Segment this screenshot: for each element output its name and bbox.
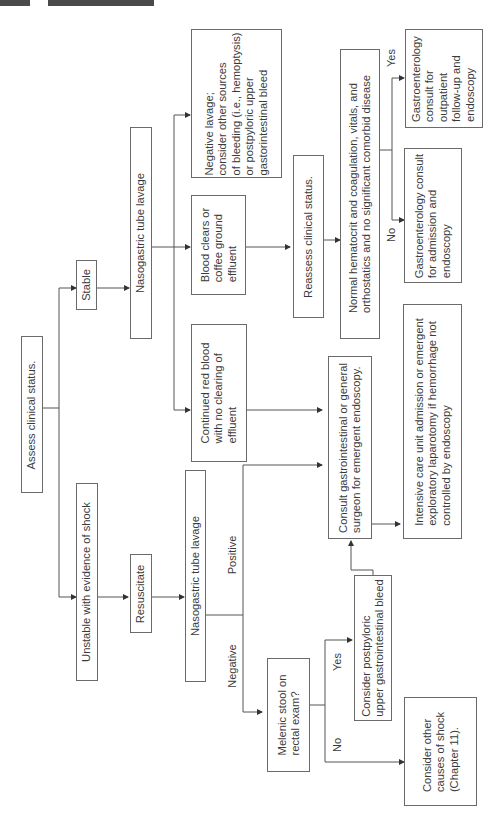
resuscitate-box: Resuscitate: [130, 554, 152, 633]
negative-label: Negative: [226, 644, 238, 687]
ngt-lavage-unstable-box: Nasogastric tube lavage: [185, 470, 206, 682]
consult-surgeon-text: Consult gastrointestinal or general surg…: [337, 363, 364, 533]
stable-box: Stable: [76, 260, 97, 310]
yes-normal-label: Yes: [385, 49, 397, 67]
gi-outpatient-text: Gastroenterology consult for outpatient …: [410, 36, 477, 122]
ngt-lavage-stable-box: Nasogastric tube lavage: [130, 127, 152, 339]
ngt-unstable-text: Nasogastric tube lavage: [189, 516, 202, 636]
unstable-text: Unstable with evidence of shock: [80, 502, 93, 662]
other-causes-shock-box: Consider other causes of shock (Chapter …: [404, 697, 477, 806]
other-causes-text: Consider other causes of shock (Chapter …: [420, 711, 460, 791]
yes-melenic-label: Yes: [331, 653, 343, 671]
no-normal-label: No: [385, 228, 397, 242]
ngt-stable-text: Nasogastric tube lavage: [134, 173, 147, 293]
blood-clears-text: Blood clears or coffee ground effluent: [198, 208, 238, 283]
no-melenic-label: No: [331, 738, 343, 752]
negative-lavage-box: Negative lavage; consider other sources …: [191, 29, 282, 178]
gi-outpatient-box: Gastroenterology consult for outpatient …: [405, 29, 483, 128]
reassess-clinical-status-box: Reassess clinical status.: [293, 155, 324, 318]
melenic-text: Melenic stool on rectal exam?: [275, 675, 302, 756]
assess-clinical-status-box: Assess clinical status.: [21, 336, 43, 493]
normal-hematocrit-box: Normal hematocrit and coagulation, vital…: [340, 49, 380, 339]
gi-admission-text: Gastroenterology consult for admission a…: [413, 153, 453, 277]
normal-hct-text: Normal hematocrit and coagulation, vital…: [347, 75, 374, 313]
continued-red-blood-box: Continued red blood with no clearing of …: [191, 324, 247, 462]
positive-label: Positive: [226, 536, 238, 575]
melenic-stool-box: Melenic stool on rectal exam?: [267, 658, 310, 772]
negative-lavage-text: Negative lavage; consider other sources …: [203, 32, 270, 175]
postpyloric-bleed-box: Consider postpyloric upper gastrointesti…: [354, 575, 392, 721]
icu-laparotomy-box: Intensive care unit admission or emergen…: [403, 304, 462, 539]
unstable-shock-box: Unstable with evidence of shock: [76, 483, 98, 681]
blood-clears-box: Blood clears or coffee ground effluent: [191, 195, 246, 295]
gi-admission-box: Gastroenterology consult for admission a…: [404, 148, 462, 283]
resuscitate-text: Resuscitate: [134, 564, 147, 622]
postpyloric-text: Consider postpyloric upper gastrointesti…: [360, 579, 387, 716]
reassess-text: Reassess clinical status.: [302, 176, 315, 298]
continued-red-text: Continued red blood with no clearing of …: [199, 343, 239, 444]
stable-text: Stable: [80, 269, 93, 301]
consult-surgeon-box: Consult gastrointestinal or general surg…: [328, 356, 372, 539]
icu-text: Intensive care unit admission or emergen…: [412, 318, 452, 526]
assess-text: Assess clinical status.: [25, 360, 38, 469]
